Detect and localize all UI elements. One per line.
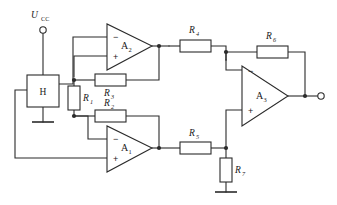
junction-r5-r7-node	[224, 146, 228, 150]
junction-a2-output	[157, 44, 161, 48]
opamp-a2-plus-sign: +	[113, 52, 118, 62]
opamp-a3-label-subscript: 3	[264, 96, 267, 103]
resistor-r4-subscript: 4	[196, 30, 199, 37]
resistor-r1: R 1	[68, 86, 93, 110]
resistor-r2-label: R	[103, 98, 110, 108]
resistor-r3: R 3	[95, 74, 126, 100]
wire-node-to-r6-left	[226, 52, 257, 60]
opamp-a2-label-subscript: 2	[129, 46, 132, 53]
opamp-a3-plus-sign: +	[248, 106, 253, 116]
resistor-r2: R 2	[95, 98, 126, 122]
resistor-r3-label: R	[103, 88, 110, 98]
opamp-a3-minus-sign: −	[248, 66, 253, 76]
junction-node-bottom	[72, 114, 76, 118]
supply-label: U	[31, 10, 39, 20]
resistor-r6-subscript: 6	[273, 36, 277, 43]
supply-label-subscript: CC	[41, 15, 49, 22]
resistor-r4-label: R	[188, 25, 195, 35]
opamp-a1: − + A 1	[107, 126, 152, 172]
resistor-r7-subscript: 7	[242, 170, 246, 177]
resistor-r2-subscript: 2	[111, 103, 114, 110]
opamp-a1-minus-sign: −	[113, 134, 118, 144]
resistor-r4: R 4	[180, 25, 211, 52]
supply-terminal[interactable]	[40, 27, 46, 33]
junction-a1-output	[157, 146, 161, 150]
wire-r4-to-a3-node	[211, 46, 226, 60]
opamp-a1-label-subscript: 1	[129, 148, 132, 155]
resistor-r5: R 5	[180, 128, 211, 154]
junction-a3-inverting-node	[224, 50, 228, 54]
resistor-r7: R 7	[220, 158, 246, 182]
junction-node-top	[72, 78, 76, 82]
wire-r6-to-a3-output	[288, 52, 305, 96]
resistor-r3-subscript: 3	[110, 93, 114, 100]
opamp-a2-minus-sign: −	[113, 32, 118, 42]
resistor-r1-label: R	[82, 93, 89, 103]
opamp-a2: − + A 2	[107, 24, 152, 70]
output-terminal[interactable]	[318, 93, 324, 99]
resistor-r1-subscript: 1	[90, 98, 93, 105]
resistor-r5-label: R	[188, 128, 195, 138]
circuit-schematic: H U CC − + A 2 − + A 1 − + A	[0, 0, 337, 205]
wire-node-r7-to-a3-plus	[226, 110, 242, 148]
resistor-r7-label: R	[234, 165, 241, 175]
opamp-a1-plus-sign: +	[113, 154, 118, 164]
wire-node-to-a3-minus	[226, 60, 242, 70]
resistor-r6-label: R	[265, 31, 272, 41]
resistor-r6: R 6	[257, 31, 288, 58]
hall-element-label: H	[40, 87, 47, 97]
opamp-a3: − + A 3	[242, 66, 288, 126]
resistor-r5-subscript: 5	[196, 133, 199, 140]
schematic-canvas: H U CC − + A 2 − + A 1 − + A	[0, 0, 337, 205]
junction-a3-output	[303, 94, 307, 98]
